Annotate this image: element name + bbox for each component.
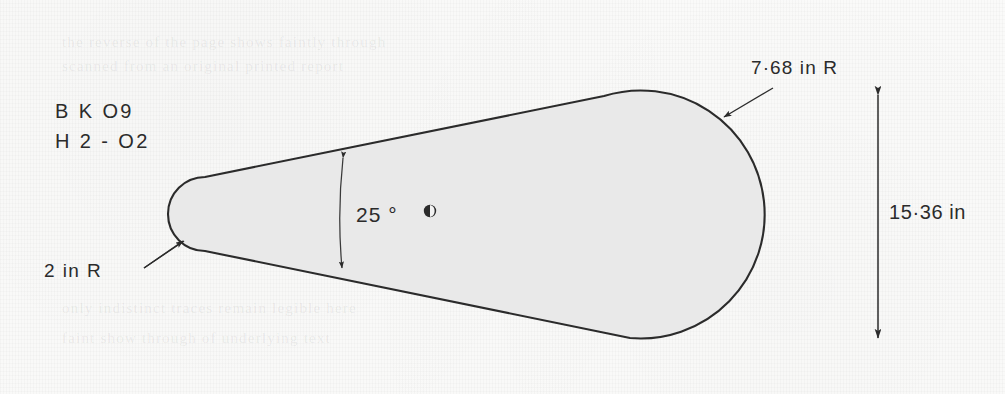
- drawing-canvas: 25 ° 2 in R 7·68 in R 15·36 in B K O9 H …: [0, 0, 1005, 394]
- nose-radius-label: 2 in R: [44, 260, 102, 281]
- part-code-block: B K O9 H 2 - O2: [55, 100, 150, 152]
- nose-radius-leader: [144, 241, 183, 268]
- overall-height-group: 15·36 in: [878, 95, 966, 338]
- tail-radius-group: 7·68 in R: [724, 57, 838, 117]
- aerofoil-body: [168, 90, 765, 338]
- tail-radius-leader: [724, 88, 773, 117]
- angle-dimension-label: 25 °: [356, 203, 398, 226]
- aerofoil-outline: [168, 90, 765, 338]
- centre-mark: [424, 205, 436, 217]
- nose-radius-group: 2 in R: [44, 241, 184, 281]
- scanned-drawing-page: the reverse of the page shows faintly th…: [0, 0, 1005, 394]
- part-code-line-1: B K O9: [55, 100, 134, 122]
- overall-height-label: 15·36 in: [889, 201, 966, 223]
- tail-radius-label: 7·68 in R: [751, 57, 838, 78]
- part-code-line-2: H 2 - O2: [55, 130, 150, 152]
